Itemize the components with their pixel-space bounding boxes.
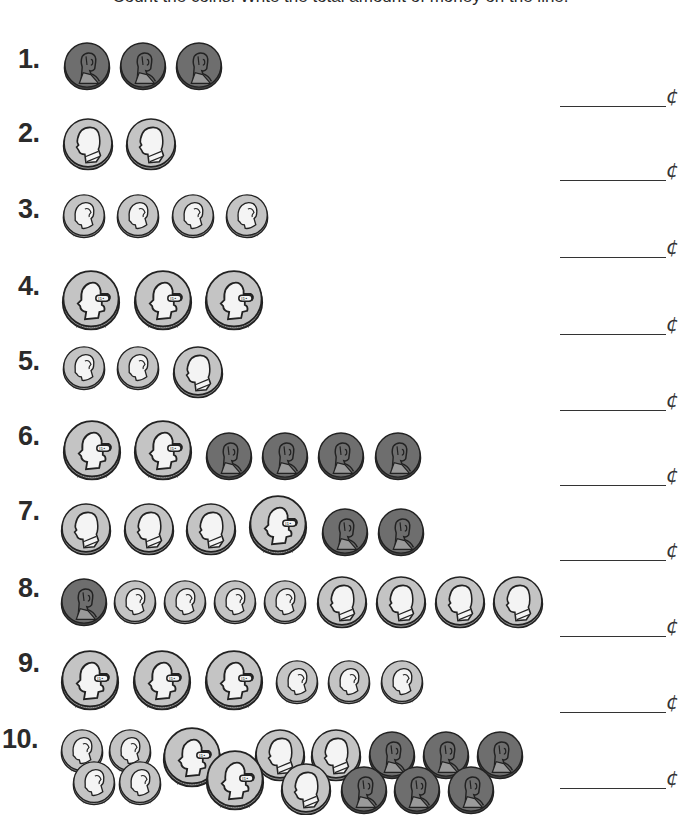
dime-coin-icon bbox=[263, 580, 307, 624]
penny-coin-icon bbox=[261, 432, 309, 480]
penny-coin-icon bbox=[377, 508, 425, 556]
svg-text:J1•: J1• bbox=[96, 676, 103, 681]
dime-coin-icon bbox=[213, 580, 257, 624]
cent-symbol: ¢ bbox=[666, 690, 679, 714]
cent-symbol: ¢ bbox=[666, 463, 679, 487]
nickel-coin-icon bbox=[492, 576, 544, 628]
svg-text:J1•: J1• bbox=[97, 296, 104, 301]
dime-coin-icon bbox=[275, 660, 319, 704]
problem-number: 3. bbox=[18, 194, 40, 225]
quarter-coin-icon: J1• bbox=[61, 270, 121, 330]
problem-number: 4. bbox=[18, 271, 40, 302]
answer-blank[interactable] bbox=[560, 410, 666, 411]
quarter-coin-icon: J1• bbox=[248, 495, 308, 555]
cent-symbol: ¢ bbox=[666, 235, 679, 259]
cent-symbol: ¢ bbox=[666, 388, 679, 412]
svg-text:J1•: J1• bbox=[240, 296, 247, 301]
cent-symbol: ¢ bbox=[666, 538, 679, 562]
cent-symbol: ¢ bbox=[666, 312, 679, 336]
nickel-coin-icon bbox=[60, 503, 112, 555]
quarter-coin-icon: J1• bbox=[62, 420, 122, 480]
dime-coin-icon bbox=[118, 761, 162, 805]
quarter-coin-icon: J1• bbox=[205, 750, 265, 810]
dime-coin-icon bbox=[116, 346, 160, 390]
dime-coin-icon bbox=[225, 194, 269, 238]
cent-symbol: ¢ bbox=[666, 614, 679, 638]
nickel-coin-icon bbox=[62, 118, 114, 170]
problem-number: 1. bbox=[18, 44, 40, 75]
nickel-coin-icon bbox=[185, 503, 237, 555]
quarter-coin-icon: J1• bbox=[204, 650, 264, 710]
answer-blank[interactable] bbox=[560, 257, 666, 258]
answer-blank[interactable] bbox=[560, 106, 666, 107]
cent-symbol: ¢ bbox=[666, 84, 679, 108]
problem-number: 6. bbox=[18, 421, 40, 452]
dime-coin-icon bbox=[327, 660, 371, 704]
dime-coin-icon bbox=[62, 194, 106, 238]
quarter-coin-icon: J1• bbox=[60, 650, 120, 710]
nickel-coin-icon bbox=[125, 118, 177, 170]
answer-blank[interactable] bbox=[560, 560, 666, 561]
quarter-coin-icon: J1• bbox=[133, 420, 193, 480]
penny-coin-icon bbox=[317, 432, 365, 480]
penny-coin-icon bbox=[63, 42, 111, 90]
answer-blank[interactable] bbox=[560, 180, 666, 181]
penny-coin-icon bbox=[175, 42, 223, 90]
dime-coin-icon bbox=[171, 194, 215, 238]
dime-coin-icon bbox=[113, 580, 157, 624]
penny-coin-icon bbox=[119, 42, 167, 90]
dime-coin-icon bbox=[116, 194, 160, 238]
answer-blank[interactable] bbox=[560, 485, 666, 486]
problem-number: 8. bbox=[18, 573, 40, 604]
dime-coin-icon bbox=[380, 660, 424, 704]
problem-number: 9. bbox=[18, 648, 40, 679]
penny-coin-icon bbox=[321, 508, 369, 556]
nickel-coin-icon bbox=[280, 763, 332, 815]
svg-text:J1•: J1• bbox=[168, 676, 175, 681]
dime-coin-icon bbox=[62, 346, 106, 390]
svg-text:J1•: J1• bbox=[284, 521, 291, 526]
penny-coin-icon bbox=[340, 766, 388, 814]
dime-coin-icon bbox=[163, 580, 207, 624]
svg-text:J1•: J1• bbox=[240, 676, 247, 681]
penny-coin-icon bbox=[393, 766, 441, 814]
cent-symbol: ¢ bbox=[666, 158, 679, 182]
penny-coin-icon bbox=[374, 432, 422, 480]
quarter-coin-icon: J1• bbox=[133, 270, 193, 330]
quarter-coin-icon: J1• bbox=[132, 650, 192, 710]
problem-number: 2. bbox=[18, 118, 40, 149]
cent-symbol: ¢ bbox=[666, 766, 679, 790]
answer-blank[interactable] bbox=[560, 712, 666, 713]
answer-blank[interactable] bbox=[560, 636, 666, 637]
dime-coin-icon bbox=[72, 761, 116, 805]
penny-coin-icon bbox=[60, 578, 108, 626]
answer-blank[interactable] bbox=[560, 334, 666, 335]
instructions: Count the coins. Write the total amount … bbox=[0, 0, 681, 7]
quarter-coin-icon: J1• bbox=[204, 270, 264, 330]
problem-number: 5. bbox=[18, 346, 40, 377]
nickel-coin-icon bbox=[434, 576, 486, 628]
penny-coin-icon bbox=[447, 766, 495, 814]
problem-number: 10. bbox=[2, 724, 38, 755]
svg-text:J1•: J1• bbox=[169, 296, 176, 301]
svg-text:J1•: J1• bbox=[241, 776, 248, 781]
nickel-coin-icon bbox=[172, 346, 224, 398]
nickel-coin-icon bbox=[123, 503, 175, 555]
problem-number: 7. bbox=[18, 496, 40, 527]
nickel-coin-icon bbox=[316, 576, 368, 628]
penny-coin-icon bbox=[205, 432, 253, 480]
svg-text:J1•: J1• bbox=[98, 446, 105, 451]
answer-blank[interactable] bbox=[560, 788, 666, 789]
svg-text:J1•: J1• bbox=[169, 446, 176, 451]
nickel-coin-icon bbox=[375, 576, 427, 628]
